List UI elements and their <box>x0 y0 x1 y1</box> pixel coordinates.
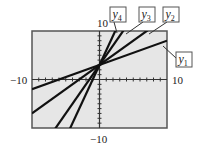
graphing-calculator-chart: y1y2y3y4 −10 10 10 −10 <box>0 0 206 148</box>
legend-label-y3: y3 <box>126 7 155 34</box>
x-min-label: −10 <box>10 74 28 86</box>
y-min-label: −10 <box>90 133 108 145</box>
legend-label-y4: y4 <box>110 7 126 33</box>
x-max-label: 10 <box>172 74 184 86</box>
y-max-label: 10 <box>97 17 109 29</box>
